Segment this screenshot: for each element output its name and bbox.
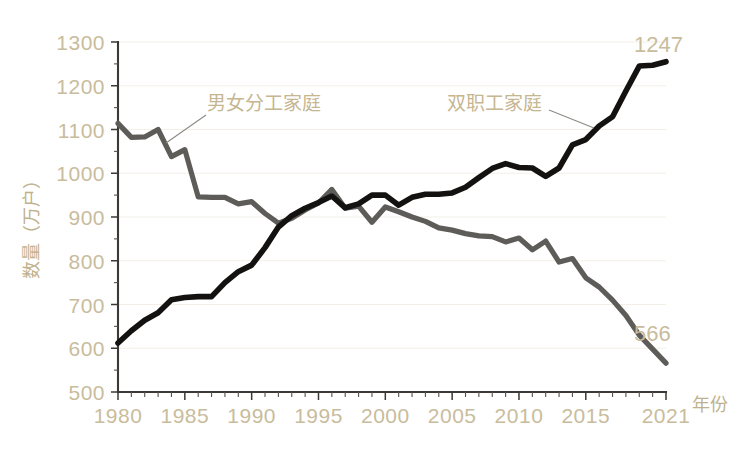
x-tick-label: 1985 — [160, 404, 209, 427]
x-tick-label: 2015 — [561, 404, 610, 427]
y-tick-label: 900 — [68, 206, 105, 229]
series-lines-group — [118, 62, 666, 363]
x-tick-label: 1980 — [94, 404, 143, 427]
x-tick-label: 1995 — [294, 404, 343, 427]
line-chart-figure: 5006007008009001000110012001300 19801985… — [0, 0, 747, 449]
x-tick-label: 2021 — [642, 404, 691, 427]
y-tick-label: 700 — [68, 294, 105, 317]
series-annotation-fenong: 男女分工家庭 — [207, 93, 321, 114]
y-tick-label: 800 — [68, 250, 105, 273]
y-tick-label: 1300 — [56, 31, 105, 54]
x-axis-tick-labels: 198019851990199520002005201020152021 — [94, 404, 691, 427]
y-tick-label: 600 — [68, 337, 105, 360]
series-line-shuangzhigong[interactable] — [118, 62, 666, 343]
y-axis-tick-labels: 5006007008009001000110012001300 — [56, 31, 105, 404]
x-tick-label: 2005 — [428, 404, 477, 427]
end-value-label-1247: 1247 — [634, 32, 683, 57]
annotation-leader-lines — [166, 110, 594, 143]
chart-container: 5006007008009001000110012001300 19801985… — [0, 0, 747, 449]
x-axis-ticks — [118, 392, 666, 400]
y-axis-title: 数量（万户） — [22, 171, 42, 279]
series-line-fenong[interactable] — [118, 123, 666, 363]
y-tick-label: 500 — [68, 381, 105, 404]
leader-line-shuangzhigong — [549, 110, 594, 128]
x-tick-label: 1990 — [227, 404, 276, 427]
y-tick-label: 1100 — [58, 119, 105, 142]
x-tick-label: 2000 — [361, 404, 410, 427]
y-tick-label: 1000 — [56, 162, 105, 185]
x-tick-label: 2010 — [495, 404, 544, 427]
x-axis-title: 年份 — [692, 395, 728, 415]
series-annotation-shuangzhigong: 双职工家庭 — [447, 93, 542, 114]
y-tick-label: 1200 — [56, 75, 105, 98]
end-value-label-566: 566 — [634, 321, 671, 346]
